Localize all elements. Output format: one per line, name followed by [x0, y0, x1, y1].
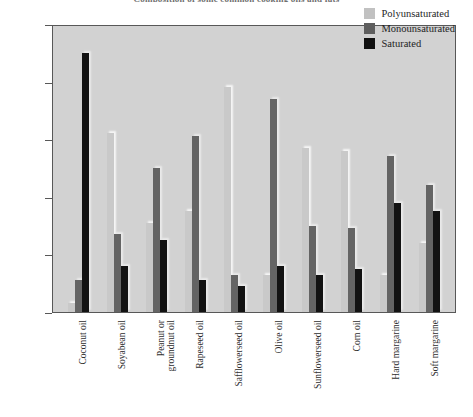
bar-group: [410, 26, 449, 312]
bar: [263, 275, 270, 312]
y-axis-tick-mark: [45, 25, 52, 26]
bar: [355, 269, 362, 312]
x-axis-label-cell: Peanut orgroundnut oil: [136, 316, 175, 416]
bar-group: [215, 26, 254, 312]
bar: [146, 223, 153, 312]
bar-group: [59, 26, 98, 312]
x-axis-label: Soyabean oil: [117, 320, 127, 369]
x-axis-label: Rapeseed oil: [195, 320, 205, 369]
bar: [387, 156, 394, 312]
bar: [316, 275, 323, 312]
bar: [348, 228, 355, 312]
y-axis-tick-mark: [45, 83, 52, 84]
legend-item: Monounsaturated: [364, 23, 456, 34]
x-axis-label-cell: Coconut oil: [58, 316, 97, 416]
y-axis-tick-mark: [45, 313, 52, 314]
x-axis-label: Hard margarine: [391, 320, 401, 380]
chart-root: Composition of some common cooking oils …: [0, 0, 473, 417]
x-axis-label: Coconut oil: [78, 320, 88, 365]
y-axis: 100%80%60%40%20%0%: [0, 0, 52, 320]
bar: [309, 226, 316, 312]
bar: [302, 148, 309, 312]
bar-group: [98, 26, 137, 312]
bar: [153, 168, 160, 312]
chart-legend: PolyunsaturatedMonounsaturatedSaturated: [364, 8, 456, 49]
x-axis-label-cell: Sunflowerseed oil: [293, 316, 332, 416]
x-axis-label-cell: Olive oil: [254, 316, 293, 416]
legend-swatch: [364, 8, 375, 19]
y-axis-tick-mark: [45, 255, 52, 256]
x-axis-label-cell: Hard margarine: [372, 316, 411, 416]
bar: [231, 275, 238, 312]
legend-item: Polyunsaturated: [364, 8, 456, 19]
x-axis-label-cell: Safflowerseed oil: [215, 316, 254, 416]
bar-group: [332, 26, 371, 312]
bar: [224, 87, 231, 312]
x-axis-labels: Coconut oilSoyabean oilPeanut orgroundnu…: [52, 316, 456, 416]
legend-label: Monounsaturated: [382, 23, 456, 34]
x-axis-label: Soft margarine: [430, 320, 440, 377]
bar-group: [371, 26, 410, 312]
bar: [199, 280, 206, 312]
bar: [433, 211, 440, 312]
x-axis-label: Olive oil: [274, 320, 284, 354]
x-axis-label: Safflowerseed oil: [234, 320, 244, 387]
legend-swatch: [364, 23, 375, 34]
bar: [270, 99, 277, 312]
plot-area: [52, 25, 456, 313]
bar-group: [176, 26, 215, 312]
bar-group: [293, 26, 332, 312]
y-axis-tick-mark: [45, 140, 52, 141]
bar: [75, 280, 82, 312]
bar: [426, 185, 433, 312]
bar: [68, 303, 75, 312]
x-axis-label: Sunflowerseed oil: [313, 320, 323, 389]
chart-title: Composition of some common cooking oils …: [0, 0, 473, 2]
legend-label: Polyunsaturated: [382, 8, 450, 19]
legend-item: Saturated: [364, 38, 456, 49]
bar-group: [137, 26, 176, 312]
legend-swatch: [364, 38, 375, 49]
y-axis-tick-mark: [45, 198, 52, 199]
x-axis-label: Corn oil: [352, 320, 362, 351]
bar: [160, 240, 167, 312]
x-axis-label-cell: Soyabean oil: [97, 316, 136, 416]
bar: [192, 136, 199, 312]
legend-label: Saturated: [382, 38, 422, 49]
x-axis-label-cell: Corn oil: [332, 316, 371, 416]
bar: [121, 266, 128, 312]
bar-group: [254, 26, 293, 312]
bar: [114, 234, 121, 312]
bar: [380, 275, 387, 312]
bar: [107, 133, 114, 312]
bar: [82, 53, 89, 312]
bar: [394, 203, 401, 312]
bar: [238, 286, 245, 312]
x-axis-label-cell: Soft margarine: [411, 316, 450, 416]
bar: [277, 266, 284, 312]
x-axis-label-cell: Rapeseed oil: [176, 316, 215, 416]
bar: [341, 151, 348, 312]
bar: [185, 211, 192, 312]
bar: [419, 243, 426, 312]
x-axis-label: Peanut orgroundnut oil: [156, 320, 176, 371]
bar-groups: [53, 26, 455, 312]
